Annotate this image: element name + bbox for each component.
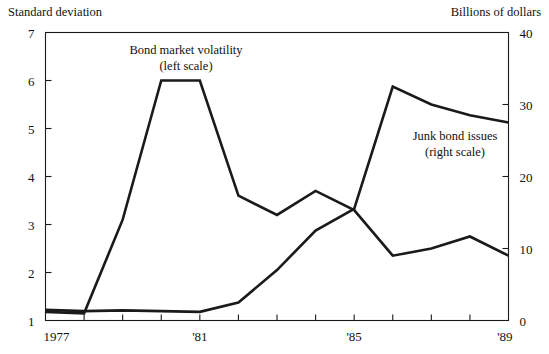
left-tick-label-5: 5	[28, 122, 35, 137]
right-axis-ticks	[503, 105, 509, 249]
right-axis-title: Billions of dollars	[451, 5, 541, 19]
left-tick-label-4: 4	[28, 170, 35, 185]
x-tick-label-1981: '81	[192, 329, 207, 344]
right-tick-label-20: 20	[520, 170, 533, 185]
right-tick-label-40: 40	[520, 26, 533, 41]
x-axis-ticks	[84, 315, 470, 321]
left-tick-label-2: 2	[28, 266, 35, 281]
left-axis-ticks	[46, 81, 52, 273]
plot-frame	[46, 33, 509, 321]
left-axis-tick-labels: 1234567	[28, 26, 35, 329]
annotation-bond-market-volatility: Bond market volatility	[129, 43, 243, 57]
chart-figure: Standard deviation Billions of dollars 1…	[0, 0, 549, 354]
left-tick-label-1: 1	[28, 314, 35, 329]
x-tick-label-1977: 1977	[44, 329, 71, 344]
left-tick-label-3: 3	[28, 218, 35, 233]
left-tick-label-7: 7	[28, 26, 35, 41]
left-tick-label-6: 6	[28, 74, 35, 89]
series-line-bond-market-volatility	[46, 81, 509, 314]
x-tick-label-1985: '85	[346, 329, 361, 344]
x-tick-label-1989: '89	[497, 329, 512, 344]
annotation-junk-bond-issues: Junk bond issues	[413, 129, 498, 143]
chart-svg: Standard deviation Billions of dollars 1…	[0, 0, 549, 354]
annotation-junk-bond-issues-scale: (right scale)	[425, 145, 485, 159]
series-line-junk-bond-issues	[46, 87, 509, 312]
left-axis-title: Standard deviation	[8, 5, 103, 19]
right-tick-label-10: 10	[520, 242, 533, 257]
right-tick-label-30: 30	[520, 98, 533, 113]
right-tick-label-0: 0	[520, 314, 527, 329]
x-axis-tick-labels: 1977'81'85'89	[44, 329, 513, 344]
annotation-bond-market-volatility-scale: (left scale)	[159, 59, 212, 73]
right-axis-tick-labels: 010203040	[520, 26, 533, 329]
